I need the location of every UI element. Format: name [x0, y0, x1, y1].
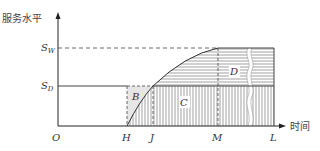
region-c-label: C — [180, 97, 188, 108]
sd-label: SD — [41, 80, 54, 93]
origin-label: O — [52, 132, 60, 143]
service-level-diagram: D C B 服务水平 SW SD O H J M L 时间 — [0, 0, 320, 151]
tick-j-label: J — [148, 132, 155, 143]
y-axis-arrow-icon — [56, 12, 61, 19]
region-d-label: D — [229, 66, 238, 77]
tick-h-label: H — [121, 132, 131, 143]
axis-break-icon — [249, 48, 251, 126]
x-axis-label: 时间 — [290, 120, 310, 132]
tick-l-label: L — [269, 132, 277, 143]
region-b-label: B — [131, 91, 139, 102]
sw-label: SW — [41, 42, 56, 55]
x-axis-arrow-icon — [279, 124, 286, 129]
y-axis-label: 服务水平 — [2, 12, 42, 24]
tick-m-label: M — [211, 132, 223, 143]
region-d-area — [153, 48, 274, 86]
